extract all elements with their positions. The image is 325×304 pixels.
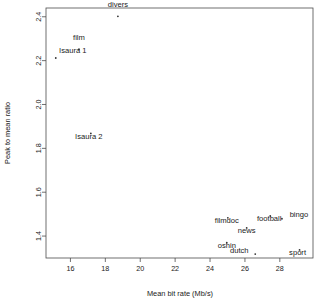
point-label: Isaura 1 (59, 46, 86, 55)
x-tick-label: 18 (101, 264, 109, 273)
scatter-plot-figure: 16182022242628 1.41.61.82.02.22.4 divers… (0, 0, 325, 304)
point-label: film (73, 33, 85, 42)
point-marker (281, 218, 283, 220)
point-label: dutch (230, 246, 249, 255)
y-tick-label: 1.4 (34, 231, 43, 241)
data-point: news (238, 226, 256, 235)
point-label: bingo (290, 210, 309, 219)
y-tick-label: 1.8 (34, 143, 43, 153)
y-tick-label: 2.2 (34, 56, 43, 66)
point-label: filmdoc (215, 216, 239, 225)
point-label: divers (108, 0, 128, 9)
data-point: football (257, 214, 282, 223)
point-marker (117, 15, 119, 17)
x-tick-label: 26 (241, 264, 249, 273)
point-label: football (257, 214, 282, 223)
y-axis-title: Peak to mean ratio (3, 102, 12, 164)
x-tick-label: 28 (276, 264, 284, 273)
x-axis-title: Mean bit rate (Mb/s) (147, 289, 213, 298)
x-tick-label: 16 (66, 264, 74, 273)
point-label: news (238, 226, 256, 235)
x-tick-label: 20 (136, 264, 144, 273)
y-tick-label: 1.6 (34, 187, 43, 197)
y-tick-label: 2.0 (34, 99, 43, 109)
x-tick-label: 24 (206, 264, 214, 273)
point-label: sport (289, 248, 307, 257)
point-label: Isaura 2 (75, 132, 102, 141)
data-point: Isaura 2 (75, 132, 102, 141)
point-marker (55, 57, 57, 59)
data-point: sport (289, 248, 307, 257)
point-marker (254, 253, 256, 255)
x-tick-label: 22 (171, 264, 179, 273)
data-point: filmdoc (215, 216, 239, 225)
plot-canvas: 16182022242628 1.41.61.82.02.22.4 divers… (0, 0, 325, 304)
y-tick-label: 2.4 (34, 12, 43, 22)
